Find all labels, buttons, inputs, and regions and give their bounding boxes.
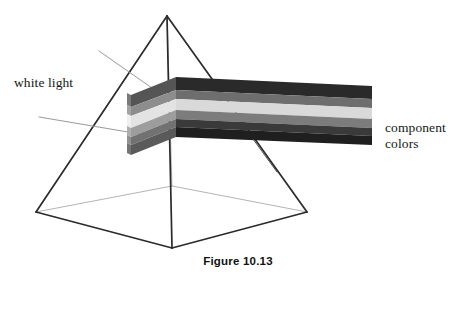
figure-caption: Figure 10.13	[0, 255, 476, 267]
prism-hidden-edge-back-left	[36, 186, 172, 212]
prism-edge-base-left-front	[36, 212, 172, 248]
prism-edge-base-front-right	[172, 212, 307, 248]
spectrum-endface-band-2	[127, 114, 131, 128]
prism-hidden-edge-back-right	[172, 186, 307, 212]
figure-illustration-prism-dispersion: white light component colors Figure 10.1…	[0, 0, 476, 318]
label-component-colors-line-2: colors	[385, 136, 471, 152]
label-white-light: white light	[14, 75, 73, 91]
dispersed-spectrum-beam	[127, 77, 372, 155]
component-colors-leader-line	[253, 139, 277, 172]
spectrum-endface-band-5	[127, 143, 131, 155]
label-component-colors-line-1: component	[385, 120, 471, 136]
prism-dispersion-diagram	[0, 0, 476, 318]
white-light-ray-upper	[99, 51, 152, 88]
spectrum-endface-band-0	[127, 93, 131, 107]
label-component-colors: component colors	[385, 120, 471, 151]
